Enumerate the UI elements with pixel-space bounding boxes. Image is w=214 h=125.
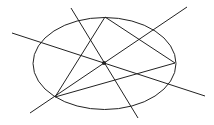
triangle-group <box>55 17 175 97</box>
geometry-diagram <box>0 0 214 125</box>
center-point <box>102 61 106 65</box>
line-through-center-diagonal <box>30 7 187 113</box>
